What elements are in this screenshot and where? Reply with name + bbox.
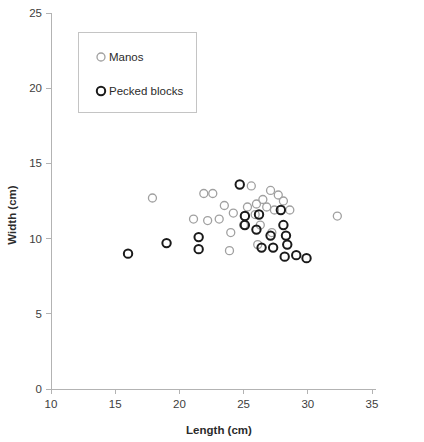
data-point-pecked-blocks — [194, 245, 202, 253]
x-axis-tick-label: 15 — [109, 398, 122, 410]
data-point-manos — [227, 229, 235, 237]
data-point-pecked-blocks — [280, 252, 288, 260]
data-point-manos — [229, 209, 237, 217]
data-point-pecked-blocks — [124, 249, 132, 257]
x-axis-title: Length (cm) — [186, 424, 252, 436]
data-point-pecked-blocks — [279, 221, 287, 229]
data-point-manos — [333, 212, 341, 220]
data-point-manos — [220, 202, 228, 210]
x-axis-tick-label: 25 — [237, 398, 250, 410]
data-points — [124, 180, 341, 262]
data-point-manos — [190, 215, 198, 223]
data-point-pecked-blocks — [302, 254, 310, 262]
chart-legend: ManosPecked blocks — [78, 32, 196, 112]
data-point-pecked-blocks — [282, 231, 290, 239]
data-point-pecked-blocks — [162, 239, 170, 247]
data-point-manos — [243, 203, 251, 211]
data-point-pecked-blocks — [269, 243, 277, 251]
y-axis-tick-label: 15 — [29, 157, 42, 169]
data-point-manos — [279, 197, 287, 205]
data-point-manos — [267, 186, 275, 194]
data-point-pecked-blocks — [283, 240, 291, 248]
y-axis-tick-label: 5 — [36, 308, 42, 320]
y-axis-tick-label: 20 — [29, 82, 42, 94]
data-point-manos — [204, 217, 212, 225]
data-point-manos — [148, 194, 156, 202]
y-axis-tick-label: 0 — [36, 383, 42, 395]
x-axis-tick-label: 30 — [301, 398, 314, 410]
data-point-pecked-blocks — [241, 212, 249, 220]
data-point-manos — [215, 215, 223, 223]
data-point-pecked-blocks — [236, 180, 244, 188]
data-point-manos — [225, 247, 233, 255]
y-axis-title: Width (cm) — [6, 185, 18, 244]
data-point-manos — [209, 189, 217, 197]
plot-area: 0510152025101520253035 ManosPecked block… — [0, 0, 424, 442]
data-point-manos — [247, 182, 255, 190]
data-point-manos — [263, 203, 271, 211]
legend-box — [78, 32, 196, 112]
data-point-manos — [200, 189, 208, 197]
data-point-pecked-blocks — [194, 233, 202, 241]
legend-label-manos: Manos — [109, 51, 144, 63]
x-axis-tick-label: 10 — [45, 398, 58, 410]
scatter-chart: 0510152025101520253035 ManosPecked block… — [0, 0, 424, 442]
legend-label-pecked-blocks: Pecked blocks — [109, 85, 183, 97]
data-point-pecked-blocks — [292, 251, 300, 259]
y-axis-tick-label: 10 — [29, 233, 42, 245]
x-axis-tick-label: 20 — [173, 398, 186, 410]
x-axis-tick-label: 35 — [366, 398, 379, 410]
data-point-manos — [286, 206, 294, 214]
data-point-manos — [252, 200, 260, 208]
y-axis-tick-label: 25 — [29, 7, 42, 19]
